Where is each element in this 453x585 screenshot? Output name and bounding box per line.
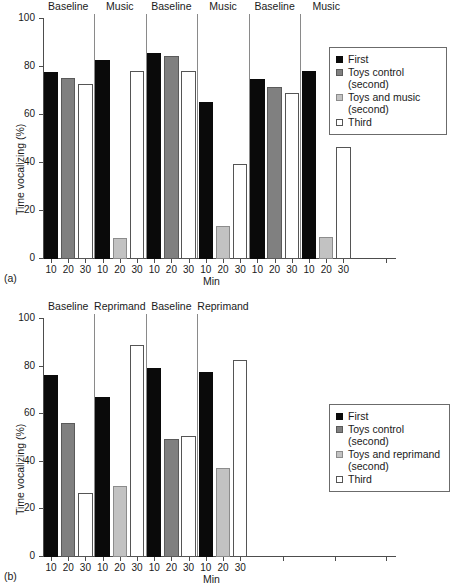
chart-panel-a: Time vocalizing (%) Min (a) 100806040200… [0,0,453,290]
panel-tag-b: (b) [4,570,17,582]
x-axis-tick [240,557,241,561]
legend-swatch-first-icon [336,413,343,420]
y-axis-title-a: Time vocalizing (%) [14,124,26,215]
phase-separator [94,314,95,556]
legend-item: Toys and music (second) [336,91,439,115]
y-axis-label: 20 [24,503,35,513]
y-axis-label: 20 [24,205,35,215]
phase-label: Reprimand [94,300,145,312]
x-axis-tick [85,259,86,263]
x-axis-tick [223,557,224,561]
x-axis-tick [137,557,138,561]
legend-swatch-third-icon [336,119,343,126]
phase-separator [197,14,198,258]
y-axis-label: 0 [29,551,35,561]
bar [267,87,282,259]
x-axis-tick [283,557,284,561]
y-axis-label: 60 [24,408,35,418]
y-axis-label: 100 [18,313,35,323]
y-axis-tick [39,258,43,259]
y-axis-label: 80 [24,61,35,71]
phase-separator [146,314,147,556]
x-axis-tick [51,259,52,263]
bar [181,71,196,259]
x-axis-tick [386,557,387,561]
legend-label: First [348,410,368,422]
legend-b: FirstToys control (second)Toys and repri… [329,404,450,492]
x-axis-tick [120,557,121,561]
legend-item: First [336,410,442,422]
panel-tag-a: (a) [4,272,17,284]
bar [336,147,351,259]
legend-label: Toys control (second) [348,423,404,447]
x-axis-tick [68,557,69,561]
y-axis-tick [39,413,43,414]
bar [250,79,265,259]
y-axis-label: 40 [24,456,35,466]
legend-item: Third [336,116,439,128]
x-axis-tick [326,259,327,263]
bar [199,102,214,259]
y-axis-title-b: Time vocalizing (%) [14,424,26,515]
legend-label: Toys and reprimand (second) [348,448,440,472]
x-axis-tick [120,259,121,263]
y-axis-tick [39,366,43,367]
bar [78,493,93,557]
bar [113,238,128,259]
x-axis-tick [171,557,172,561]
bar [302,71,317,259]
x-axis-tick [257,259,258,263]
bar [61,78,76,259]
y-axis-tick [39,114,43,115]
bar [319,237,334,259]
x-axis-tick [240,259,241,263]
x-axis-tick [223,259,224,263]
bar [61,423,76,557]
bar [113,486,128,557]
legend-label: Third [348,116,372,128]
bar [164,439,179,557]
bar [147,53,162,259]
x-axis-tick [85,557,86,561]
legend-item: Third [336,473,442,485]
bar [233,164,248,259]
x-axis-tick [189,557,190,561]
phase-separator [94,14,95,258]
phase-label: Music [209,0,236,12]
x-axis-tick [103,259,104,263]
bar [44,375,59,557]
bar [78,84,93,259]
legend-a: FirstToys control (second)Toys and music… [329,47,447,135]
bar [216,226,231,259]
phase-separator [197,314,198,556]
x-axis-label: 30 [228,563,252,573]
bar [164,56,179,259]
y-axis-label: 80 [24,361,35,371]
legend-swatch-toysmus-icon [336,94,343,101]
bar [130,71,145,259]
x-axis-tick [51,557,52,561]
legend-label: Third [348,473,372,485]
y-axis-tick [39,66,43,67]
legend-item: Toys control (second) [336,66,439,90]
y-axis-tick [39,318,43,319]
y-axis-label: 0 [29,253,35,263]
phase-label: Reprimand [197,300,248,312]
legend-item: Toys control (second) [336,423,442,447]
y-axis-tick [39,508,43,509]
x-axis-tick [206,557,207,561]
phase-label: Baseline [254,0,294,12]
legend-label: Toys control (second) [348,66,404,90]
x-axis-tick [171,259,172,263]
x-axis-title-b: Min [203,573,220,585]
y-axis-tick [39,162,43,163]
y-axis-tick [39,556,43,557]
x-axis-tick [189,259,190,263]
bar [44,72,59,259]
phase-separator [146,14,147,258]
bar [147,368,162,557]
x-axis-tick [103,557,104,561]
bar [285,93,300,259]
bar [95,60,110,259]
legend-swatch-toysctl-icon [336,426,343,433]
